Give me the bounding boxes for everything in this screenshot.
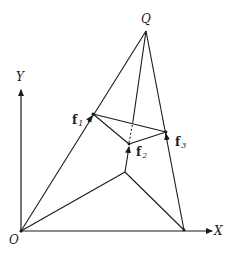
label-origin: O — [9, 233, 19, 247]
label-f2: f2 — [136, 145, 147, 160]
line-o-to-q — [21, 31, 146, 231]
line-o-to-junction — [21, 172, 125, 231]
point-o — [19, 229, 22, 232]
label-q: Q — [141, 12, 151, 26]
line-q-to-f1f3-crossing — [133, 31, 146, 121]
diagram-canvas: Q Y X O f1 f2 f3 — [0, 0, 238, 253]
label-y-axis: Y — [16, 70, 25, 84]
label-f1: f1 — [72, 113, 83, 128]
label-f3: f3 — [175, 135, 186, 150]
label-x-axis: X — [213, 224, 223, 238]
line-junction-to-base — [125, 172, 184, 230]
point-base — [183, 229, 186, 232]
point-f1 — [91, 112, 94, 115]
point-f3 — [165, 131, 168, 134]
edge-f2-f3 — [129, 132, 166, 144]
point-f2 — [128, 143, 131, 146]
hidden-segment-dashed — [129, 121, 133, 143]
line-q-to-base — [146, 31, 184, 230]
vector-junction-to-f2 — [125, 147, 129, 172]
